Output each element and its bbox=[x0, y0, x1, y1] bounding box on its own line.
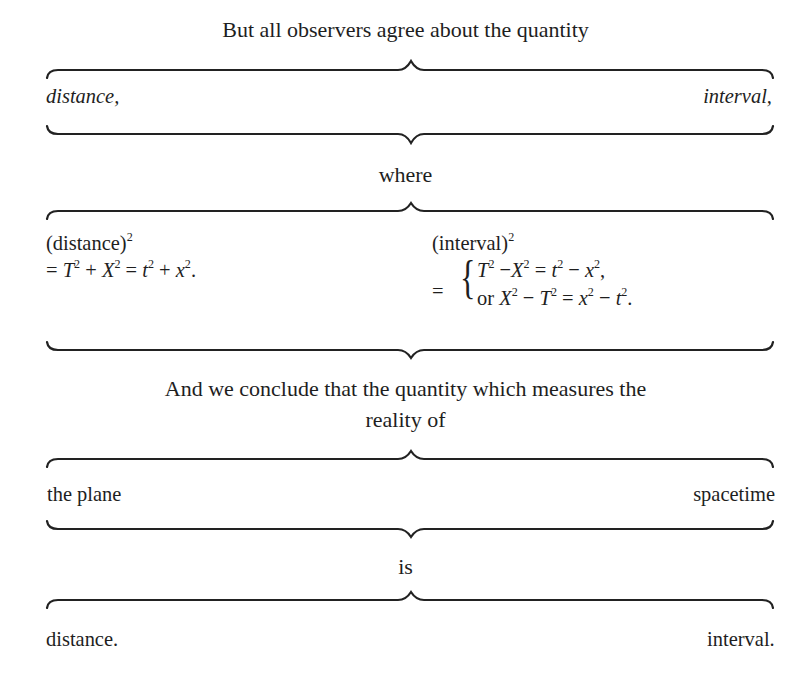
pair3-right: spacetime bbox=[693, 483, 775, 505]
pair4-right: interval. bbox=[707, 628, 775, 650]
distance-equation: = T2 + X2 = t2 + x2. bbox=[46, 259, 196, 281]
header-line: But all observers agree about the quanti… bbox=[0, 19, 811, 41]
underbrace-3 bbox=[47, 521, 773, 537]
underbrace-2 bbox=[47, 342, 773, 358]
overbrace-4 bbox=[47, 592, 773, 608]
overbrace-1 bbox=[47, 61, 773, 78]
overbrace-3 bbox=[47, 451, 773, 467]
conclusion-line-2: reality of bbox=[0, 409, 811, 431]
interval-squared-label: (interval)2 bbox=[432, 232, 514, 254]
pair1-right: interval, bbox=[703, 85, 772, 107]
connector-where: where bbox=[0, 164, 811, 186]
cases-brace: { bbox=[460, 255, 475, 301]
underbrace-1 bbox=[47, 126, 773, 143]
overbrace-2 bbox=[47, 203, 773, 219]
interval-case-spacelike: or X2 − T2 = x2 − t2. bbox=[477, 287, 632, 309]
interval-case-timelike: T2 −X2 = t2 − x2, bbox=[477, 259, 605, 281]
connector-is: is bbox=[0, 556, 811, 578]
interval-eq-sign: = bbox=[432, 280, 444, 302]
distance-squared-label: (distance)2 bbox=[46, 232, 133, 254]
pair1-left: distance, bbox=[46, 85, 119, 107]
brace-lines bbox=[0, 0, 811, 695]
pair3-left: the plane bbox=[47, 483, 121, 505]
pair4-left: distance. bbox=[46, 628, 118, 650]
conclusion-line-1: And we conclude that the quantity which … bbox=[0, 378, 811, 400]
